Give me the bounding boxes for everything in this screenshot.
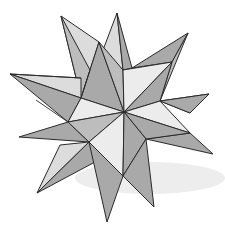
star-polyhedron-drawing [0,0,225,233]
